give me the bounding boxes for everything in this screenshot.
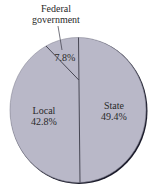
- pie-chart: [0, 0, 151, 192]
- local-label: Local 42.8%: [27, 105, 61, 127]
- local-value: 42.8%: [27, 116, 61, 127]
- state-name: State: [97, 100, 131, 111]
- federal-label: Federal government: [25, 3, 87, 25]
- state-value: 49.4%: [97, 111, 131, 122]
- local-name: Local: [27, 105, 61, 116]
- state-label: State 49.4%: [97, 100, 131, 122]
- federal-label-line1: Federal: [25, 3, 87, 14]
- federal-label-line2: government: [25, 14, 87, 25]
- federal-value: 7.8%: [53, 52, 77, 63]
